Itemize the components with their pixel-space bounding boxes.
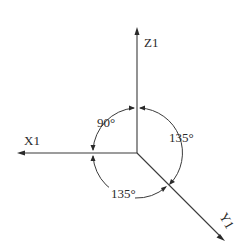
angle-label-z-y: 135° (169, 130, 194, 145)
arc-arrowhead-icon (91, 145, 96, 151)
y-arrowhead-icon (217, 234, 226, 241)
z-arrowhead-icon (135, 27, 140, 35)
y-axis (137, 153, 225, 241)
angle-label-x-z: 90° (97, 115, 115, 130)
arc-arrowhead-icon (129, 106, 135, 111)
x-axis (17, 151, 137, 156)
angle-arc-z-y (139, 106, 182, 186)
x-arrowhead-icon (17, 151, 25, 156)
arc-arrowhead-icon (161, 186, 167, 192)
axes-diagram: Z1 X1 Y1 90° 135° 135° (0, 0, 248, 249)
x-axis-label: X1 (24, 133, 40, 148)
z-axis-label: Z1 (144, 35, 158, 50)
z-axis (135, 27, 140, 153)
angle-label-y-x: 135° (111, 186, 136, 201)
arc-arrowhead-icon (91, 155, 96, 161)
arc-arrowhead-icon (139, 106, 145, 111)
y-axis-label: Y1 (216, 210, 237, 231)
